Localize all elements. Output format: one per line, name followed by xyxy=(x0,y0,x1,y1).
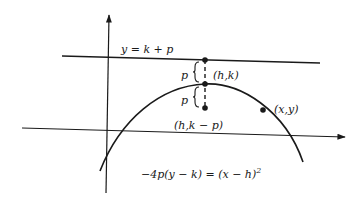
focus-point xyxy=(202,105,208,111)
focus-label: (h,k − p) xyxy=(174,119,223,132)
parabola-figure: y = k + p p p (h,k) (h,k − p) (x,y) −4p(… xyxy=(0,0,364,199)
y-axis xyxy=(106,15,109,193)
p-lower-label: p xyxy=(181,94,188,107)
vertex-point xyxy=(202,81,208,87)
equation-main: −4p(y − k) = (x − h) xyxy=(141,168,256,181)
directrix-point xyxy=(202,57,208,63)
directrix-line xyxy=(62,56,320,63)
point-label: (x,y) xyxy=(274,103,299,116)
brace-lower xyxy=(193,87,199,107)
brace-upper xyxy=(193,62,199,82)
general-point xyxy=(260,107,266,113)
equation-exponent: 2 xyxy=(255,166,261,175)
vertex-label: (h,k) xyxy=(213,69,239,82)
p-upper-label: p xyxy=(181,69,188,82)
equation-label: −4p(y − k) = (x − h)2 xyxy=(141,166,261,181)
directrix-label: y = k + p xyxy=(120,43,173,56)
